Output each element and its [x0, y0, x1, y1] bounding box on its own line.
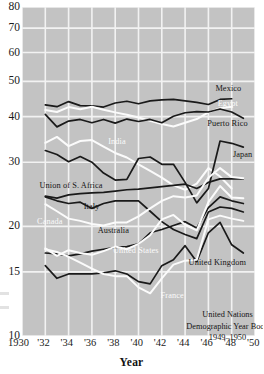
- y-tick-80: 80: [0, 1, 20, 13]
- series-label-mexico: Mexico: [215, 85, 241, 93]
- y-tick-20: 20: [0, 220, 20, 232]
- series-label-egypt: Egypt: [218, 100, 238, 108]
- x-tick-1944: '44: [177, 338, 189, 349]
- series-label-australia: Australia: [98, 227, 129, 235]
- y-axis: 807060504030201510: [0, 0, 20, 374]
- y-tick-40: 40: [0, 111, 20, 123]
- series-label-united-states: United States: [113, 247, 159, 255]
- series-lines: [22, 7, 255, 336]
- x-tick-1938: '38: [107, 338, 119, 349]
- y-tick-15: 15: [0, 266, 20, 278]
- x-tick-1950: '50: [247, 338, 259, 349]
- x-tick-1932: '32: [37, 338, 49, 349]
- series-label-union-of-s-africa: Union of S. Africa: [40, 182, 103, 190]
- x-axis: 1930'32'34'36'38'40'42'44'46'48'50: [0, 338, 263, 354]
- x-tick-1940: '40: [131, 338, 143, 349]
- series-label-france: France: [161, 292, 184, 300]
- x-tick-1946: '46: [200, 338, 212, 349]
- page-artifact: [0, 292, 9, 295]
- x-tick-1948: '48: [224, 338, 236, 349]
- series-label-united-kingdom: United Kingdom: [189, 259, 246, 267]
- plot-area: MexicoEgyptPuerto RicoIndiaJapanUnion of…: [22, 7, 255, 336]
- source-line-2: Demographic Year Book: [174, 321, 264, 332]
- x-tick-1930: 1930: [8, 338, 29, 349]
- y-tick-70: 70: [0, 22, 20, 34]
- series-label-puerto-rico: Puerto Rico: [207, 120, 248, 128]
- x-tick-1934: '34: [61, 338, 73, 349]
- x-tick-1942: '42: [154, 338, 166, 349]
- source-line-1: United Nations: [174, 309, 264, 320]
- page-artifact: [0, 306, 9, 309]
- series-label-italy: Italy: [84, 203, 100, 211]
- y-tick-60: 60: [0, 47, 20, 59]
- y-tick-30: 30: [0, 156, 20, 168]
- x-axis-title: Year: [0, 356, 263, 368]
- series-label-japan: Japan: [233, 151, 252, 159]
- x-tick-1936: '36: [84, 338, 96, 349]
- series-label-india: India: [108, 138, 126, 146]
- series-label-canada: Canada: [37, 218, 62, 226]
- y-tick-50: 50: [0, 75, 20, 87]
- birth-rate-chart: 807060504030201510 MexicoEgyptPuerto Ric…: [0, 0, 263, 374]
